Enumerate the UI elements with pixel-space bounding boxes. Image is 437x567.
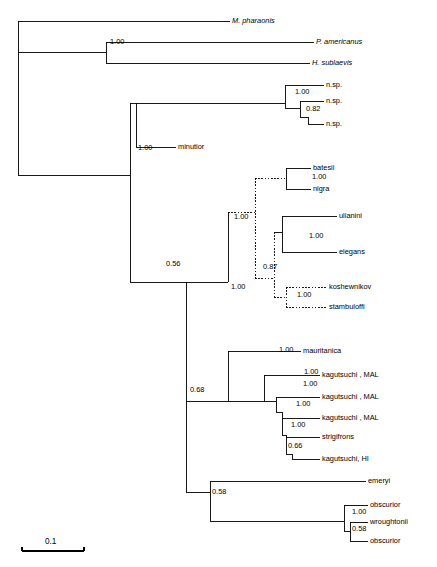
taxon-labels: M. pharaonis P. americanus H. sublaevis … [178, 16, 408, 545]
scale-bar-group: 0.1 [22, 537, 84, 551]
taxon-label-kagutsuchi-mal-2: kagutsuchi , MAL [322, 392, 379, 401]
taxon-label-m-pharaonis: M. pharaonis [232, 16, 275, 25]
support-value-14: 1.00 [303, 379, 317, 388]
support-value-19: 0.58 [212, 487, 226, 496]
taxon-label-kagutsuchi-mal-1: kagutsuchi , MAL [322, 370, 379, 379]
taxon-label-kagutsuchi-hi: kagutsuchi, HI [322, 454, 369, 463]
scale-bar-label: 0.1 [45, 537, 57, 546]
taxon-label-nsp-3: n.sp. [326, 119, 342, 128]
taxon-label-mauritanica: mauritanica [303, 346, 342, 355]
taxon-label-obscurior-1: obscurior [370, 500, 401, 509]
support-value-11: 1.00 [231, 282, 245, 291]
support-value-12: 1.00 [279, 345, 293, 354]
taxon-label-obscurior-2: obscurior [370, 536, 401, 545]
support-value-17: 0.66 [288, 441, 302, 450]
support-value-6: 1.00 [234, 212, 248, 221]
taxon-label-wroughtonii: wroughtonii [369, 517, 408, 526]
support-value-13: 1.00 [304, 367, 318, 376]
tree-svg: M. pharaonis P. americanus H. sublaevis … [0, 0, 437, 567]
taxon-label-elegans: elegans [339, 247, 365, 256]
taxon-label-koshewnikov: koshewnikov [329, 282, 372, 291]
support-value-16: 1.00 [291, 420, 305, 429]
support-value-7: 1.00 [309, 231, 323, 240]
support-value-3: 0.82 [306, 104, 320, 113]
taxon-label-strigifrons: strigifrons [322, 432, 354, 441]
phylogenetic-tree-figure: M. pharaonis P. americanus H. sublaevis … [0, 0, 437, 567]
taxon-label-emeryi: emeryi [368, 476, 391, 485]
support-value-9: 1.00 [297, 290, 311, 299]
support-value-21: 0.58 [352, 524, 366, 533]
support-value-5: 1.00 [312, 172, 326, 181]
taxon-label-h-sublaevis: H. sublaevis [312, 58, 353, 67]
support-value-8: 0.87 [263, 262, 277, 271]
taxon-label-nsp-2: n.sp. [326, 96, 342, 105]
support-value-15: 1.00 [296, 399, 310, 408]
tree-branches [18, 21, 368, 541]
taxon-label-minutior: minutior [178, 142, 205, 151]
support-value-10: 0.56 [166, 259, 180, 268]
taxon-label-kagutsuchi-mal-3: kagutsuchi , MAL [322, 413, 379, 422]
taxon-label-batesii: batesii [313, 163, 335, 172]
support-value-20: 1.00 [352, 507, 366, 516]
taxon-label-nigra: nigra [313, 184, 330, 193]
support-value-2: 1.00 [295, 87, 309, 96]
taxon-label-nsp-1: n.sp. [326, 80, 342, 89]
taxon-label-p-americanus: P. americanus [316, 37, 363, 46]
taxon-label-ulianini: ulianini [339, 211, 362, 220]
support-value-18: 0.68 [190, 385, 204, 394]
support-value-1: 1.00 [110, 37, 124, 46]
support-value-4: 1.00 [138, 143, 152, 152]
taxon-label-stambuloffi: stambuloffi [329, 302, 365, 311]
